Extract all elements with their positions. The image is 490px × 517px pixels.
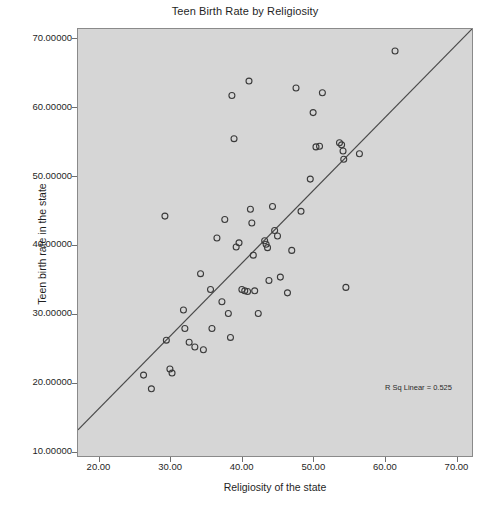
data-point (247, 206, 253, 212)
data-point (227, 334, 233, 340)
data-point (392, 48, 398, 54)
data-point (200, 347, 206, 353)
data-point (266, 278, 272, 284)
x-tick-label: 40.00 (212, 461, 272, 472)
data-point (209, 326, 215, 332)
data-point (192, 344, 198, 350)
x-tick-label: 60.00 (355, 461, 415, 472)
scatter-chart: Teen Birth Rate by Religiosity 10.000002… (0, 0, 490, 517)
x-tick-label: 50.00 (283, 461, 343, 472)
data-point (310, 110, 316, 116)
x-tick-label: 20.00 (69, 461, 129, 472)
data-point (343, 284, 349, 290)
data-point (214, 235, 220, 241)
plot-area (77, 28, 473, 457)
data-point (284, 290, 290, 296)
data-point (277, 274, 283, 280)
data-point (319, 90, 325, 96)
data-point (317, 143, 323, 149)
data-point (250, 252, 256, 258)
data-point (255, 310, 261, 316)
data-point (219, 299, 225, 305)
regression-line (78, 29, 472, 430)
data-point (198, 271, 204, 277)
y-axis-title: Teen birth rate in the state (36, 119, 48, 369)
x-tick-label: 70.00 (427, 461, 487, 472)
data-point (289, 247, 295, 253)
data-point (180, 307, 186, 313)
data-point (182, 326, 188, 332)
data-point (307, 176, 313, 182)
data-point (225, 310, 231, 316)
data-point (141, 372, 147, 378)
data-point (356, 151, 362, 157)
data-point (293, 85, 299, 91)
data-point (162, 213, 168, 219)
x-axis-title: Religiosity of the state (77, 481, 473, 493)
data-point (186, 339, 192, 345)
data-point (340, 148, 346, 154)
data-point (270, 204, 276, 210)
data-point (148, 386, 154, 392)
data-point (298, 208, 304, 214)
data-point (275, 233, 281, 239)
data-point (252, 288, 258, 294)
data-point (246, 78, 252, 84)
x-tick-label: 30.00 (140, 461, 200, 472)
data-point (229, 92, 235, 98)
data-point (231, 136, 237, 142)
data-point (222, 217, 228, 223)
data-point (208, 286, 214, 292)
data-point (249, 220, 255, 226)
r-squared-annotation: R Sq Linear = 0.525 (385, 383, 452, 392)
